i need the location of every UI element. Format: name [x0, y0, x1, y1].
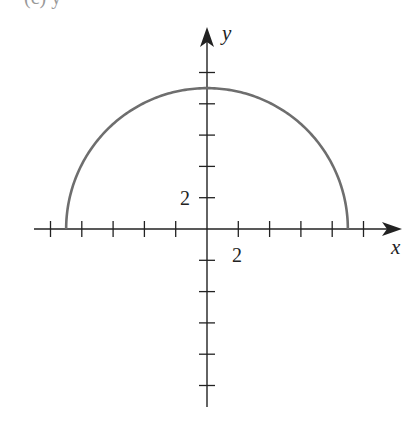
chart-title-clipped: (c) y =: [24, 0, 77, 9]
y-tick-label-2: 2: [180, 187, 190, 209]
semicircle-chart: (c) y = 2 x 2 y: [0, 0, 415, 422]
x-tick-label-2: 2: [232, 244, 242, 266]
y-axis: 2 y: [180, 21, 232, 407]
x-axis-label: x: [390, 235, 401, 259]
y-axis-label: y: [220, 21, 232, 45]
